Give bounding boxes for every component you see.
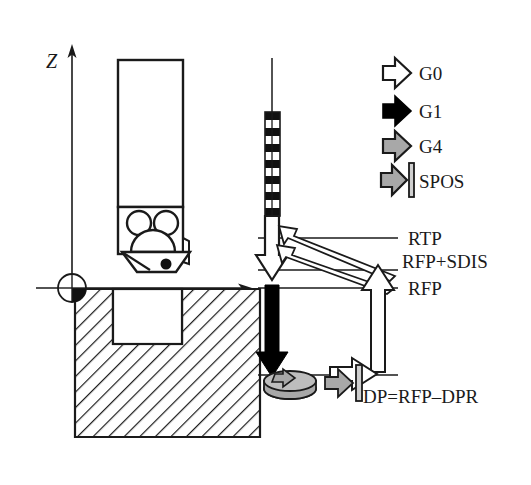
rfp-label: RFP xyxy=(408,278,442,299)
z-axis-label: Z xyxy=(46,50,58,72)
legend-label-g0: G0 xyxy=(419,63,442,84)
tool-tip-dot xyxy=(161,259,172,270)
diagram-canvas: Z X xyxy=(0,0,531,485)
g4-dwell-disc-icon xyxy=(264,369,316,399)
hatched-workpiece-section xyxy=(75,289,260,437)
workpiece-zero-icon xyxy=(58,274,86,302)
rtp-label: RTP xyxy=(408,228,442,249)
drill-tool-holder xyxy=(118,60,190,272)
dp-label: DP=RFP–DPR xyxy=(363,386,479,407)
rfp-sdis-label: RFP+SDIS xyxy=(402,251,488,272)
legend-icon-spos-bar xyxy=(409,163,414,197)
workpiece-pocket xyxy=(113,289,182,344)
legend-label-g4: G4 xyxy=(419,136,443,157)
legend-label-g1: G1 xyxy=(419,101,442,122)
cnc-cycle-diagram: Z X xyxy=(0,0,531,485)
legend-label-spos: SPOS xyxy=(419,171,464,192)
dashed-rapid-traverse-band xyxy=(265,112,280,216)
tool-shank xyxy=(118,60,183,207)
